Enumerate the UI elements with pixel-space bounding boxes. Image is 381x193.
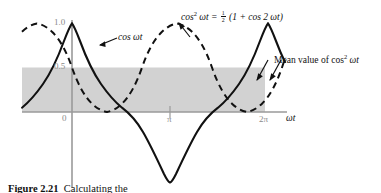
fraction-numerator: 1 — [221, 10, 226, 17]
y-tick-label-0: 0 — [62, 114, 67, 123]
caption-label: Figure — [8, 183, 38, 193]
cos-label-leader — [99, 38, 117, 47]
mean-value-shaded-band — [22, 68, 265, 113]
cos-squared-formula-pre: cos — [181, 12, 194, 22]
x-axis-label: ωt — [286, 114, 295, 124]
mean-value-label: Mean value of cos2 ωt — [274, 54, 359, 66]
mean-value-label-exponent: 2 — [344, 53, 347, 60]
x-tick-label-pi: π — [167, 115, 172, 124]
cos-squared-formula-label: cos2 ωt = 12 (1 + cos 2 ωt) — [181, 10, 283, 23]
caption-text: Calculating the — [64, 183, 128, 193]
cos-squared-formula-exponent: 2 — [194, 10, 197, 17]
x-tick-label-2pi: 2π — [259, 115, 268, 124]
caption-number: 2.21 — [40, 183, 58, 193]
mean-value-label-post: ωt — [350, 55, 359, 65]
figure-caption: Figure 2.21 Calculating the — [8, 183, 128, 193]
cos-curve-label: cos ωt — [118, 33, 142, 43]
figure-container: 1.0 0.5 0 π 2π ωt cos ωt cos2 ωt = 12 (1… — [0, 0, 381, 193]
y-tick-label-05: 0.5 — [54, 62, 65, 71]
cos-squared-formula-post: (1 + cos 2 ωt) — [229, 12, 283, 22]
one-half-fraction: 12 — [221, 10, 226, 23]
fraction-denominator: 2 — [221, 17, 226, 23]
plot-canvas — [0, 0, 381, 193]
cos-squared-formula-mid: ωt = — [199, 12, 217, 22]
y-tick-label-1: 1.0 — [54, 18, 65, 27]
mean-value-label-pre: Mean value of cos — [274, 55, 344, 65]
